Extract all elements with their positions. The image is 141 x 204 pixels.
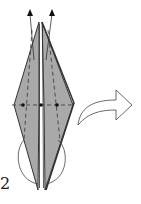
reference-dot-right xyxy=(55,103,59,107)
step-number: 2 xyxy=(0,176,10,192)
reference-dot-left xyxy=(21,103,25,107)
next-step-arrow-icon xyxy=(78,90,132,125)
paper-left-flap xyxy=(14,22,39,190)
reference-dot-center xyxy=(39,103,43,107)
origami-diagram xyxy=(0,0,141,204)
